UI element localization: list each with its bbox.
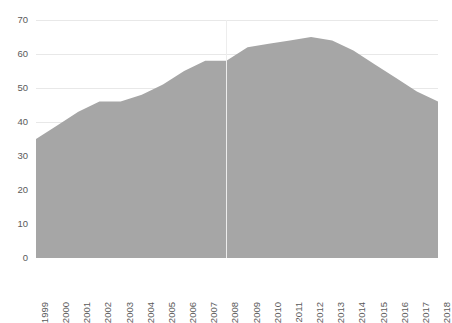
x-axis-tick-label: 2017 (421, 302, 431, 323)
y-axis-tick-label: 0 (23, 253, 28, 263)
x-axis-tick-label: 2004 (146, 302, 156, 323)
vertical-marker-line (226, 20, 227, 258)
x-axis: 1999200020012002200320042005200620072008… (36, 260, 438, 305)
x-axis-tick-label: 2005 (167, 302, 177, 323)
y-axis-tick-label: 40 (17, 117, 28, 127)
y-axis-tick-label: 20 (17, 185, 28, 195)
x-axis-tick-label: 2003 (125, 302, 135, 323)
y-axis-tick-label: 60 (17, 49, 28, 59)
area-series (36, 20, 438, 258)
x-axis-tick-label: 2010 (273, 302, 283, 323)
y-axis-tick-label: 30 (17, 151, 28, 161)
x-axis-tick-label: 2016 (400, 302, 410, 323)
x-axis-tick-label: 2011 (294, 302, 304, 322)
x-axis-tick-label: 2012 (315, 302, 325, 323)
x-axis-tick-label: 2006 (188, 302, 198, 323)
y-axis-tick-label: 10 (17, 219, 28, 229)
x-axis-tick-label: 2002 (103, 302, 113, 323)
x-axis-tick-label: 2018 (442, 302, 452, 323)
x-axis-tick-label: 2000 (61, 302, 71, 323)
x-axis-tick-label: 1999 (40, 302, 50, 323)
x-axis-tick-label: 2001 (82, 302, 92, 323)
x-axis-tick-label: 2015 (379, 302, 389, 323)
x-axis-tick-label: 2007 (209, 302, 219, 323)
y-axis: 70 60 50 40 30 20 10 0 (0, 0, 34, 278)
y-axis-tick-label: 70 (17, 15, 28, 25)
x-axis-tick-label: 2013 (336, 302, 346, 323)
y-axis-tick-label: 50 (17, 83, 28, 93)
plot-area (36, 20, 438, 258)
x-axis-tick-label: 2008 (230, 302, 240, 323)
x-axis-tick-label: 2009 (252, 302, 262, 323)
x-axis-tick-label: 2014 (357, 302, 367, 323)
